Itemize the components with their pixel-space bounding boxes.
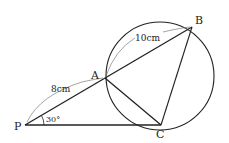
segment-PB xyxy=(25,27,192,125)
segment-BC xyxy=(161,27,192,125)
label-C: C xyxy=(156,128,164,141)
label-B: B xyxy=(195,14,203,27)
measure-PA: 8cm xyxy=(51,84,71,94)
angle-arc-P xyxy=(41,115,44,125)
label-P: P xyxy=(14,120,22,133)
measure-AB: 10cm xyxy=(135,33,160,43)
segment-AC xyxy=(105,78,161,125)
label-A: A xyxy=(90,69,100,82)
angle-label-P: 30° xyxy=(46,115,60,124)
diagram-canvas: P A B C 8cm 10cm 30° xyxy=(0,0,229,143)
measure-arc-AB xyxy=(106,38,135,76)
geometry-figure: P A B C 8cm 10cm 30° xyxy=(0,0,229,143)
